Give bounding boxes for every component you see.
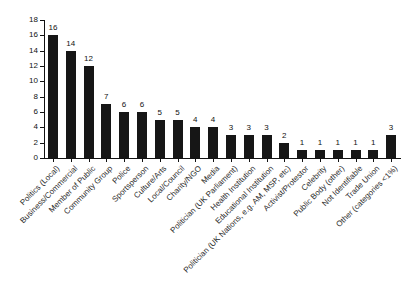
x-axis-tick-mark (391, 158, 392, 162)
bar (244, 135, 254, 158)
bar (101, 104, 111, 158)
bar (137, 112, 147, 158)
x-axis-tick-mark (338, 158, 339, 162)
bar (297, 150, 307, 158)
x-axis-tick-mark (124, 158, 125, 162)
x-axis-tick-mark (249, 158, 250, 162)
x-axis-tick-mark (356, 158, 357, 162)
x-axis-tick-mark (302, 158, 303, 162)
bar (208, 127, 218, 158)
x-axis-tick-mark (213, 158, 214, 162)
x-axis-tick-mark (231, 158, 232, 162)
bar (262, 135, 272, 158)
x-axis-tick-mark (267, 158, 268, 162)
x-axis-tick-mark (284, 158, 285, 162)
bar (48, 35, 58, 158)
plot-area (44, 20, 400, 158)
y-axis-tick-label: 18 (29, 16, 38, 24)
bar (226, 135, 236, 158)
bar (315, 150, 325, 158)
y-axis-tick-label: 12 (29, 62, 38, 70)
bar (155, 120, 165, 158)
bar (333, 150, 343, 158)
x-axis-tick-mark (142, 158, 143, 162)
bar (351, 150, 361, 158)
y-axis-tick-mark (40, 158, 44, 159)
x-axis-tick-mark (373, 158, 374, 162)
y-axis-tick-label: 6 (34, 108, 38, 116)
bar (386, 135, 396, 158)
bar (368, 150, 378, 158)
y-axis-tick-label: 8 (34, 93, 38, 101)
y-axis-tick-label: 2 (34, 139, 38, 147)
bar-value-label: 1 (363, 139, 383, 147)
x-axis-tick-mark (106, 158, 107, 162)
x-axis-line (44, 158, 401, 159)
x-axis-tick-mark (53, 158, 54, 162)
bar-chart: 024681012141618 Politics (Local)Business… (0, 0, 419, 299)
y-axis-tick-label: 14 (29, 47, 38, 55)
x-axis-tick-mark (89, 158, 90, 162)
bar-value-label: 3 (381, 124, 401, 132)
x-axis-tick-mark (178, 158, 179, 162)
bar (279, 143, 289, 158)
bar (173, 120, 183, 158)
bar-value-label: 12 (79, 55, 99, 63)
x-axis-tick-mark (160, 158, 161, 162)
x-axis-tick-mark (320, 158, 321, 162)
x-axis-tick-mark (71, 158, 72, 162)
bar (119, 112, 129, 158)
x-axis-tick-mark (195, 158, 196, 162)
bar (190, 127, 200, 158)
y-axis-tick-label: 4 (34, 123, 38, 131)
y-axis-tick-label: 10 (29, 77, 38, 85)
bar (66, 51, 76, 158)
y-axis-tick-label: 0 (34, 154, 38, 162)
bar-value-label: 16 (43, 24, 63, 32)
bar (84, 66, 94, 158)
bar-value-label: 14 (61, 40, 81, 48)
y-axis-tick-label: 16 (29, 31, 38, 39)
